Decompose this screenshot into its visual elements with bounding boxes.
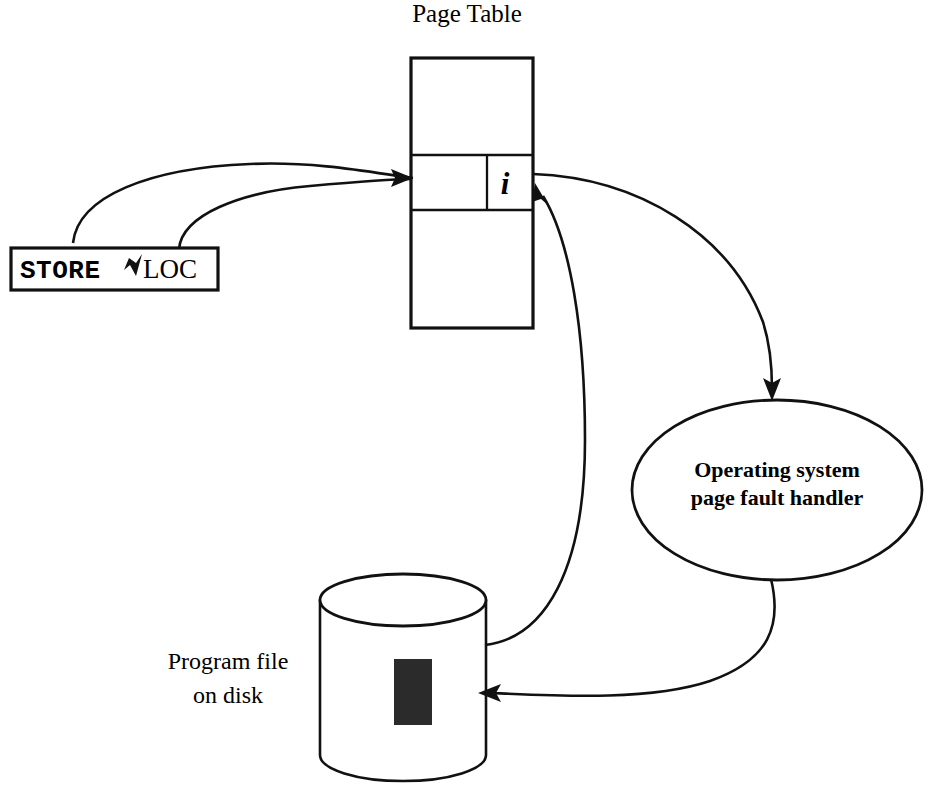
disk-page-block <box>394 659 432 725</box>
connector-os-handler-to-disk-path <box>492 579 775 696</box>
connector-page-table-to-os-handler-path <box>533 174 772 389</box>
disk-cylinder-group[interactable] <box>320 574 486 781</box>
page-table-title: Page Table <box>412 0 522 27</box>
os-handler-line1: Operating system <box>694 457 860 482</box>
instruction-opcode: STORE <box>20 256 101 286</box>
connector-store-to-page-table <box>73 164 413 243</box>
disk-label-line1: Program file <box>168 648 289 674</box>
page-fault-diagram: Page Table STORE LOC i Operating system … <box>0 0 934 801</box>
page-table-entry-flag: i <box>501 166 510 201</box>
disk-cylinder-top <box>320 574 486 626</box>
diagram-canvas-root: Page Table STORE LOC i Operating system … <box>0 0 934 801</box>
connector-loc-to-page-table-path <box>179 179 410 249</box>
instruction-operand: LOC <box>143 254 197 284</box>
page-table-group[interactable] <box>411 58 533 328</box>
connector-os-handler-to-disk <box>478 579 775 702</box>
connector-store-to-page-table-path <box>73 164 413 243</box>
connector-loc-to-page-table <box>179 169 413 249</box>
page-table-outline[interactable] <box>411 58 533 328</box>
connector-page-table-to-os-handler <box>533 174 781 401</box>
os-handler-line2: page fault handler <box>691 485 864 510</box>
disk-label-line2: on disk <box>193 682 263 708</box>
